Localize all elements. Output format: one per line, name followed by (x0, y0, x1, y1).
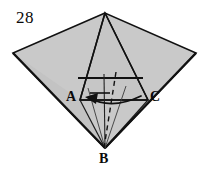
vertex-label-c: C (150, 90, 160, 104)
figure-container: 28 A C B (0, 0, 210, 177)
vertex-label-b: B (99, 152, 108, 166)
vertex-label-a: A (66, 90, 76, 104)
figure-number-label: 28 (16, 9, 34, 26)
